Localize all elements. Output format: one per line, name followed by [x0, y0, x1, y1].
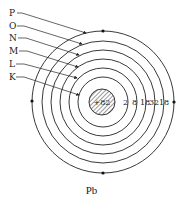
electron-dot — [101, 29, 104, 32]
count-L: 8 — [132, 98, 137, 107]
label-K: K — [9, 72, 16, 82]
electron-dot — [101, 171, 104, 174]
electron-dot — [172, 100, 175, 103]
count-N: 32 — [149, 98, 159, 107]
label-P: P — [9, 8, 15, 18]
leader-L — [16, 64, 77, 78]
leader-P — [17, 13, 86, 33]
shell-labels: P O N M L K — [9, 8, 18, 82]
leader-K — [16, 77, 79, 95]
label-L: L — [9, 59, 15, 69]
leader-M — [19, 51, 78, 67]
nucleus-charge: +82 — [94, 98, 111, 107]
electron-dot — [30, 99, 33, 102]
label-O: O — [9, 21, 16, 31]
count-K: 2 — [123, 98, 128, 107]
atomic-shell-diagram: +82 2 8 18 32 18 P O N M L K — [0, 0, 183, 205]
electron-counts: 2 8 18 32 18 — [123, 98, 169, 107]
element-caption: Pb — [0, 184, 183, 196]
count-O: 18 — [159, 98, 169, 107]
label-N: N — [9, 33, 17, 43]
label-M: M — [9, 46, 18, 56]
